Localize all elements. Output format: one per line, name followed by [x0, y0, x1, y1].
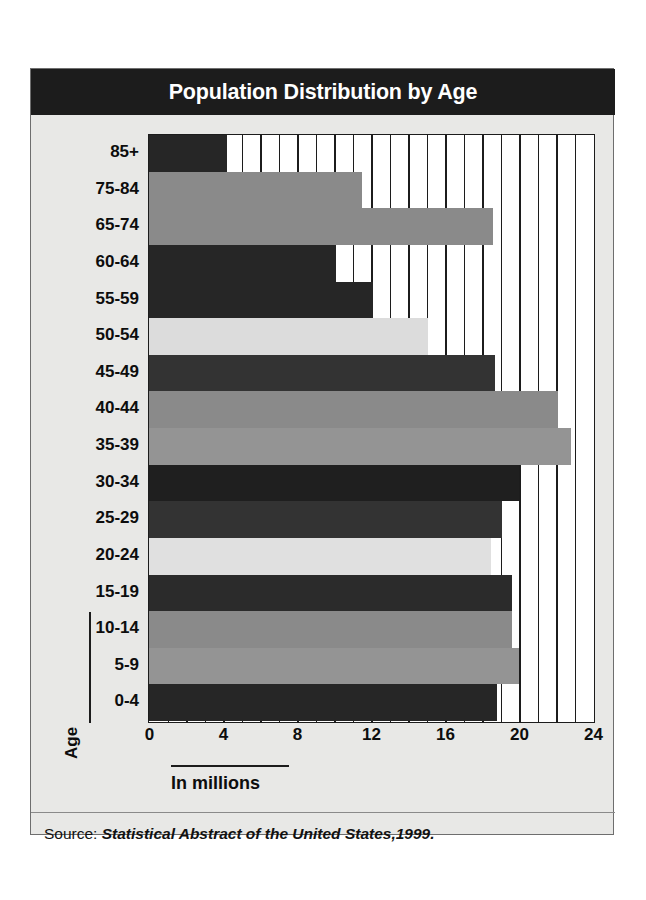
source-note: Source: Statistical Abstract of the Unit… [44, 825, 435, 843]
x-axis-title-group: In millions [171, 765, 289, 794]
bar [149, 428, 571, 465]
source-label: Source: [44, 825, 97, 842]
bar [149, 245, 336, 282]
chart-body: 85+75-8465-7460-6455-5950-5445-4940-4435… [31, 115, 615, 836]
x-tick-label: 8 [293, 725, 302, 745]
page-title: Population Distribution by Age [169, 80, 478, 105]
source-title: Statistical Abstract of the United State… [102, 825, 435, 842]
category-label: 5-9 [114, 647, 139, 684]
category-label: 55-59 [96, 281, 139, 318]
bar [149, 538, 491, 575]
figure-panel: Population Distribution by Age 85+75-846… [30, 68, 614, 835]
bar [149, 318, 428, 355]
x-axis-ticks: 04812162024 [148, 725, 595, 755]
bar [149, 282, 373, 319]
bar [149, 172, 362, 209]
category-label: 65-74 [96, 207, 139, 244]
chart-title-bar: Population Distribution by Age [31, 69, 615, 115]
x-tick-label: 20 [510, 725, 529, 745]
category-label: 25-29 [96, 500, 139, 537]
bar [149, 135, 227, 172]
category-label: 75-84 [96, 171, 139, 208]
x-tick-label: 4 [219, 725, 228, 745]
x-tick-label: 24 [584, 725, 603, 745]
category-axis-rule [89, 612, 91, 723]
y-axis-title: Age [62, 727, 82, 759]
category-label: 15-19 [96, 574, 139, 611]
category-label: 50-54 [96, 317, 139, 354]
bar [149, 575, 512, 612]
category-label: 20-24 [96, 537, 139, 574]
bar [149, 208, 493, 245]
source-separator [31, 812, 615, 813]
x-axis-title-rule [171, 765, 289, 767]
category-label: 60-64 [96, 244, 139, 281]
x-tick-label: 16 [436, 725, 455, 745]
bar-series [149, 135, 594, 722]
category-label: 0-4 [114, 683, 139, 720]
x-axis-title: In millions [171, 773, 289, 794]
bar [149, 391, 558, 428]
category-label: 85+ [110, 134, 139, 171]
bar [149, 684, 497, 721]
bar [149, 648, 519, 685]
x-tick-label: 0 [145, 725, 154, 745]
bar [149, 611, 512, 648]
plot-area [148, 134, 595, 723]
x-tick-label: 12 [362, 725, 381, 745]
category-label: 30-34 [96, 464, 139, 501]
category-label: 35-39 [96, 427, 139, 464]
bar [149, 465, 519, 502]
bar [149, 355, 495, 392]
bar [149, 501, 502, 538]
category-label: 10-14 [96, 610, 139, 647]
category-label: 45-49 [96, 354, 139, 391]
category-label: 40-44 [96, 390, 139, 427]
